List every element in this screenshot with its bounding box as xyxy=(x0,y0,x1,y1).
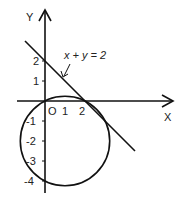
y-tick-label-1: 1 xyxy=(33,75,39,87)
origin-label: O xyxy=(48,105,57,117)
y-tick-label-neg1: -1 xyxy=(26,115,36,127)
y-tick-label-neg3: -3 xyxy=(26,155,36,167)
x-tick-label-1: 1 xyxy=(62,105,68,117)
coordinate-diagram: Y X O 1 2 2 1 -1 -2 -3 -4 x + y = 2 xyxy=(0,0,184,200)
y-tick-label-2: 2 xyxy=(33,55,39,67)
y-tick-label-neg4: -4 xyxy=(24,175,34,187)
y-axis-label: Y xyxy=(26,11,34,23)
x-axis-label: X xyxy=(164,111,172,123)
equation-label: x + y = 2 xyxy=(63,49,106,61)
x-tick-label-2: 2 xyxy=(79,105,85,117)
y-tick-label-neg2: -2 xyxy=(26,135,36,147)
